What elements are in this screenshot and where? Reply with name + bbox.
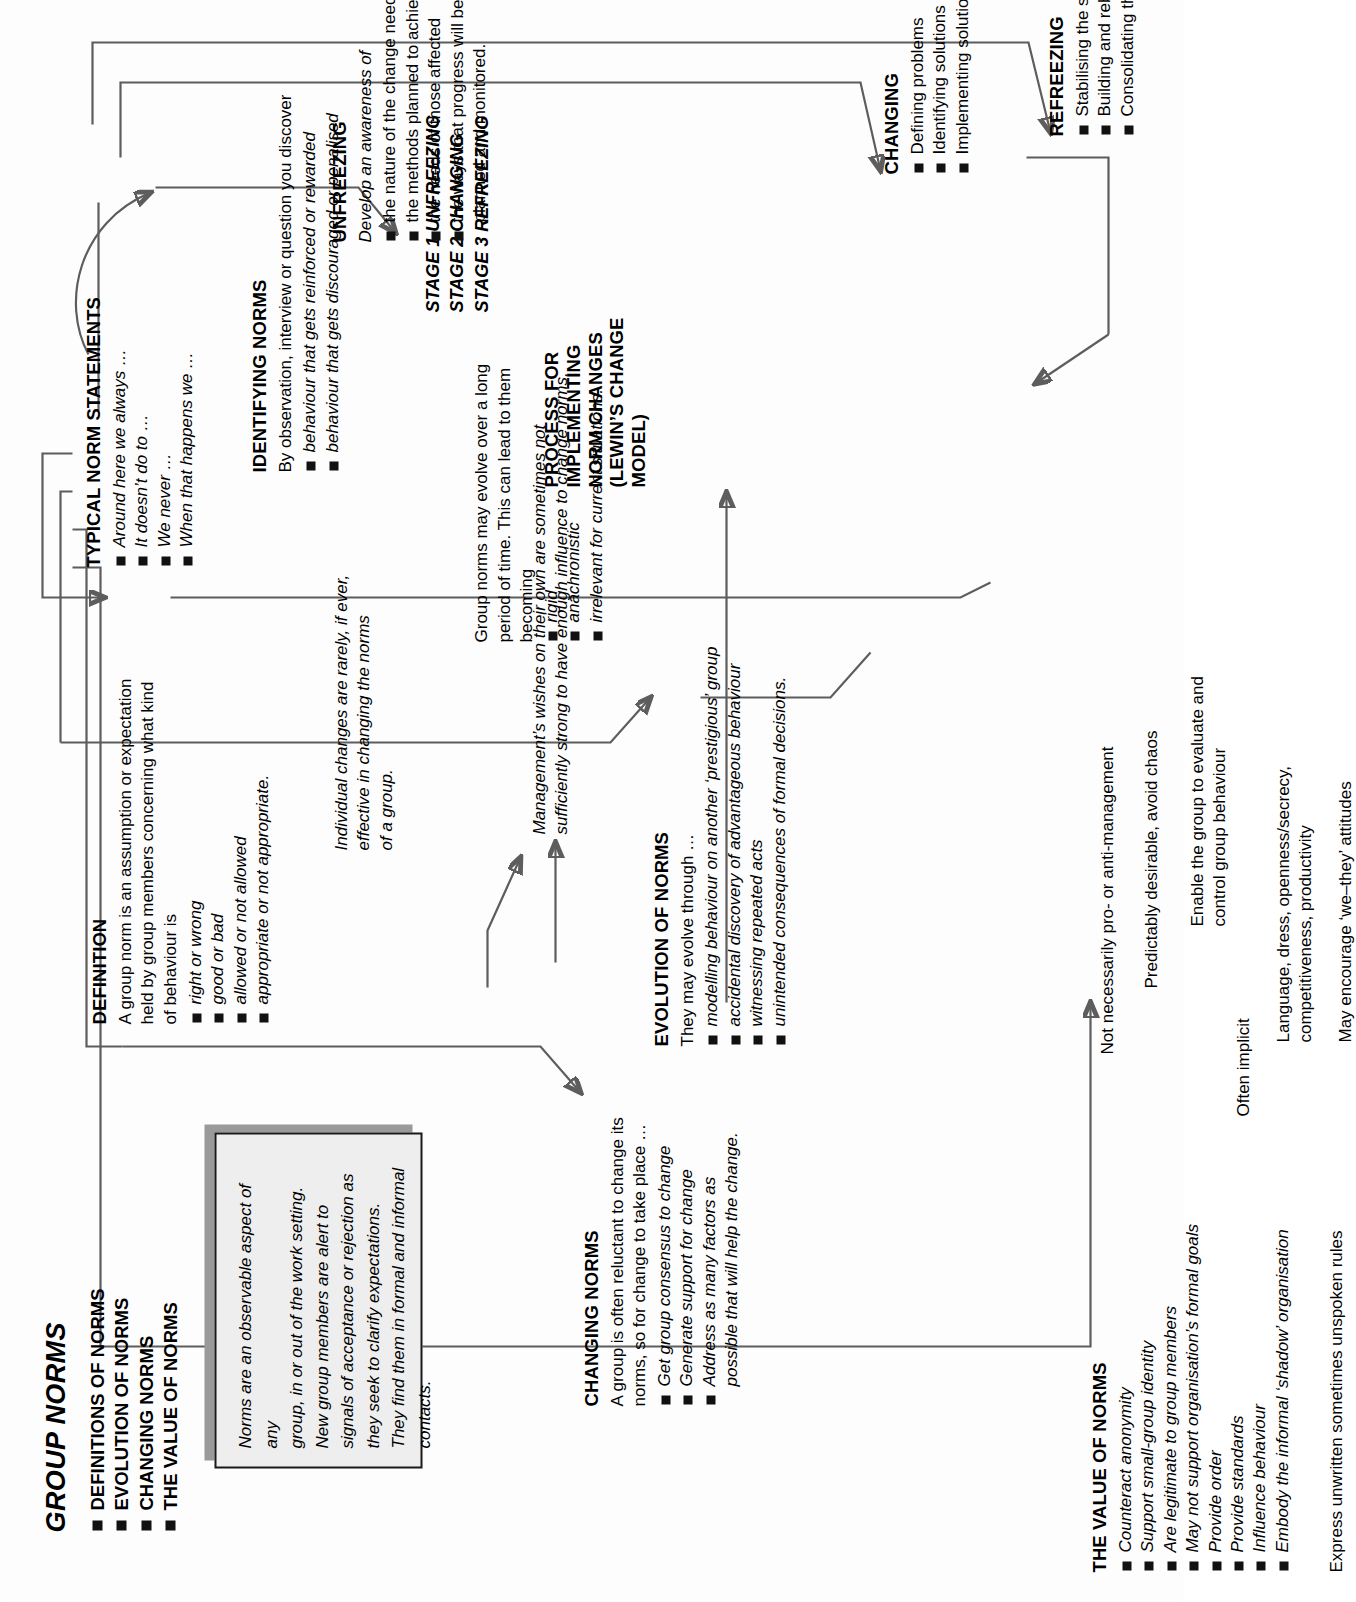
value-bullet-5: Provide order <box>1204 1142 1226 1572</box>
wire-to-changing-norms <box>122 1046 580 1092</box>
section-changing-stage: CHANGING Defining problems Identifying s… <box>880 0 973 174</box>
note-individual-changes: Individual changes are rarely, if ever, … <box>330 510 397 850</box>
value-annotation-2-text: Predictably desirable, avoid chaos <box>1140 568 1162 988</box>
evolution-of-norms-lead: They may evolve through … <box>676 576 699 1046</box>
wire-to-individual-note <box>487 857 520 987</box>
value-annotation-1: Not necessarily pro- or anti-management <box>1096 634 1118 1054</box>
value-of-norms-title: THE VALUE OF NORMS <box>1088 1142 1110 1572</box>
value-of-norms-bullets: Counteract anonymity Support small-group… <box>1114 1142 1294 1572</box>
value-of-norms-footer: Express unwritten sometimes unspoken rul… <box>1325 1092 1347 1572</box>
wire-typical-to-identifying <box>1035 334 1108 383</box>
value-bullet-6: Provide standards <box>1226 1142 1248 1572</box>
changing-stage-title: CHANGING <box>880 0 902 174</box>
section-definition: DEFINITION A group norm is an assumption… <box>88 604 273 1024</box>
value-bullet-4: May not support organisation’s formal go… <box>1181 1142 1203 1572</box>
page-title: GROUP NORMS <box>40 1102 71 1532</box>
contents-list: DEFINITIONS OF NORMS EVOLUTION OF NORMS … <box>85 1102 183 1532</box>
changing-stage-bullet-1: Defining problems <box>906 0 928 174</box>
definition-title: DEFINITION <box>88 604 110 1024</box>
contents-item-changing[interactable]: CHANGING NORMS <box>134 1102 158 1532</box>
callout-text: Norms are an observable aspect of any gr… <box>216 1134 452 1466</box>
value-bullet-8: Embody the informal ‘shadow’ organisatio… <box>1271 1142 1293 1572</box>
value-annotation-2: Predictably desirable, avoid chaos <box>1140 568 1162 988</box>
section-unfreezing: UNFREEZING Develop an awareness of the n… <box>328 0 491 242</box>
evolution-of-norms-title: EVOLUTION OF NORMS <box>650 576 672 1046</box>
value-annotation-4: Often implicit <box>1232 816 1254 1116</box>
definition-bullets: right or wrong good or bad allowed or no… <box>184 604 274 1024</box>
unfreezing-lead: Develop an awareness of <box>354 0 377 242</box>
wire-typical-bracket <box>1026 157 1108 334</box>
typical-bullet-3: We never … <box>153 267 175 567</box>
refreezing-bullet-3: Consolidating the systems <box>1116 0 1138 136</box>
value-bullet-2: Support small-group identity <box>1136 1142 1158 1572</box>
typical-norm-statements-bullets: Around here we always … It doesn’t do to… <box>108 267 198 567</box>
title-block: GROUP NORMS DEFINITIONS OF NORMS EVOLUTI… <box>40 1102 183 1532</box>
value-annotation-4-text: Often implicit <box>1232 816 1254 1116</box>
section-process-for-implementing: PROCESS FOR IMPLEMENTING NORM CHANGES (L… <box>540 287 653 487</box>
value-annotation-5: Language, dress, openness/secrecy, compe… <box>1272 622 1317 1042</box>
callout-box: Norms are an observable aspect of any gr… <box>214 1132 422 1468</box>
value-annotation-6: May encourage ‘we–they’ attitudes <box>1334 622 1356 1042</box>
definition-bullet-1: right or wrong <box>184 604 206 1024</box>
refreezing-title: REFREEZING <box>1045 0 1067 136</box>
unfreezing-bullet-3: the needs of those affected <box>423 0 445 242</box>
value-annotation-3-text: Enable the group to evaluate and control… <box>1186 546 1231 926</box>
unfreezing-bullets: the nature of the change needed the meth… <box>378 0 490 242</box>
definition-bullet-4: appropriate or not appropriate. <box>251 604 273 1024</box>
changing-norms-bullet-2: Generate support for change <box>675 986 697 1406</box>
identifying-norms-title: IDENTIFYING NORMS <box>248 52 270 472</box>
typical-bullet-1: Around here we always … <box>108 267 130 567</box>
changing-stage-bullet-3: Implementing solutions <box>951 0 973 174</box>
value-bullet-3: Are legitimate to group members <box>1159 1142 1181 1572</box>
identifying-norms-lead: By observation, interview or question yo… <box>274 52 297 472</box>
evolution-of-norms-bullets: modelling behaviour on another ‘prestigi… <box>700 576 790 1046</box>
wire-evolution-a <box>60 491 72 742</box>
definition-lead: A group norm is an assumption or expecta… <box>114 604 182 1024</box>
identifying-bullet-1: behaviour that gets reinforced or reward… <box>298 52 320 472</box>
section-changing-norms: CHANGING NORMS A group is often reluctan… <box>580 986 743 1406</box>
contents-item-evolution[interactable]: EVOLUTION OF NORMS <box>109 1102 133 1532</box>
individual-note-text: Individual changes are rarely, if ever, … <box>330 510 397 850</box>
definition-bullet-2: good or bad <box>206 604 228 1024</box>
unfreezing-bullet-2: the methods planned to achieve the chang… <box>401 0 423 242</box>
evolution-bullet-3: witnessing repeated acts <box>745 576 767 1046</box>
changing-norms-lead: A group is often reluctant to change its… <box>606 986 651 1406</box>
value-annotation-5-text: Language, dress, openness/secrecy, compe… <box>1272 622 1317 1042</box>
typical-bullet-2: It doesn’t do to … <box>130 267 152 567</box>
wire-stage2-changing <box>120 82 880 170</box>
value-bullet-1: Counteract anonymity <box>1114 1142 1136 1572</box>
refreezing-bullets: Stabilising the situation Building and r… <box>1071 0 1138 136</box>
refreezing-bullet-1: Stabilising the situation <box>1071 0 1093 136</box>
value-annotation-1-text: Not necessarily pro- or anti-management <box>1096 634 1118 1054</box>
evolution-bullet-2: accidental discovery of advantageous beh… <box>723 576 745 1046</box>
definition-bullet-3: allowed or not allowed <box>229 604 251 1024</box>
changing-norms-title: CHANGING NORMS <box>580 986 602 1406</box>
typical-norm-statements-title: TYPICAL NORM STATEMENTS <box>82 267 104 567</box>
evolution-bullet-1: modelling behaviour on another ‘prestigi… <box>700 576 722 1046</box>
contents-item-definitions[interactable]: DEFINITIONS OF NORMS <box>85 1102 109 1532</box>
changing-stage-bullets: Defining problems Identifying solutions … <box>906 0 973 174</box>
value-annotation-3: Enable the group to evaluate and control… <box>1186 546 1231 926</box>
refreezing-bullet-2: Building and rebuilding relationships <box>1093 0 1115 136</box>
evolution-bullet-4: unintended consequences of formal decisi… <box>768 576 790 1046</box>
section-typical-norm-statements: TYPICAL NORM STATEMENTS Around here we a… <box>82 267 198 567</box>
section-value-of-norms: THE VALUE OF NORMS Counteract anonymity … <box>1088 1142 1293 1572</box>
value-bullet-7: Influence behaviour <box>1248 1142 1270 1572</box>
value-annotation-6-text: May encourage ‘we–they’ attitudes <box>1334 622 1356 1042</box>
changing-norms-bullet-1: Get group consensus to change <box>653 986 675 1406</box>
section-evolution-of-norms: EVOLUTION OF NORMS They may evolve throu… <box>650 576 790 1046</box>
section-refreezing: REFREEZING Stabilising the situation Bui… <box>1045 0 1138 136</box>
unfreezing-bullet-1: the nature of the change needed <box>378 0 400 242</box>
unfreezing-bullet-4: the ways that progress will be planned a… <box>446 0 491 242</box>
unfreezing-title: UNFREEZING <box>328 0 350 242</box>
changing-norms-bullet-3: Address as many factors as possible that… <box>698 986 743 1406</box>
changing-norms-bullets: Get group consensus to change Generate s… <box>653 986 743 1406</box>
changing-stage-bullet-2: Identifying solutions <box>928 0 950 174</box>
contents-item-value[interactable]: THE VALUE OF NORMS <box>158 1102 182 1532</box>
typical-bullet-4: When that happens we … <box>175 267 197 567</box>
value-of-norms-footer-text: Express unwritten sometimes unspoken rul… <box>1325 1092 1347 1572</box>
process-title: PROCESS FOR IMPLEMENTING NORM CHANGES (L… <box>540 287 649 487</box>
